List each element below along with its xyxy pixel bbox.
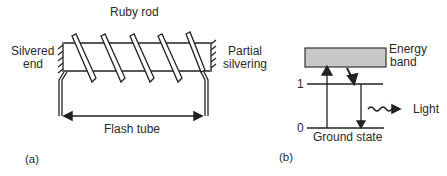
- decay-arrow: [347, 68, 357, 84]
- light-label: Light: [413, 103, 439, 116]
- level-1-label: 1: [297, 78, 304, 91]
- pump-arrow-up: [322, 66, 332, 128]
- energy-band-label-line2: band: [390, 56, 417, 69]
- ground-state-label: Ground state: [313, 131, 382, 144]
- panel-label-b: (b): [279, 151, 293, 164]
- light-wave-arrow: [368, 105, 400, 113]
- energy-level-drawing: [0, 0, 447, 176]
- level-0-label: 0: [297, 122, 304, 135]
- emission-arrow-down: [357, 84, 365, 128]
- energy-band-box: [305, 48, 386, 67]
